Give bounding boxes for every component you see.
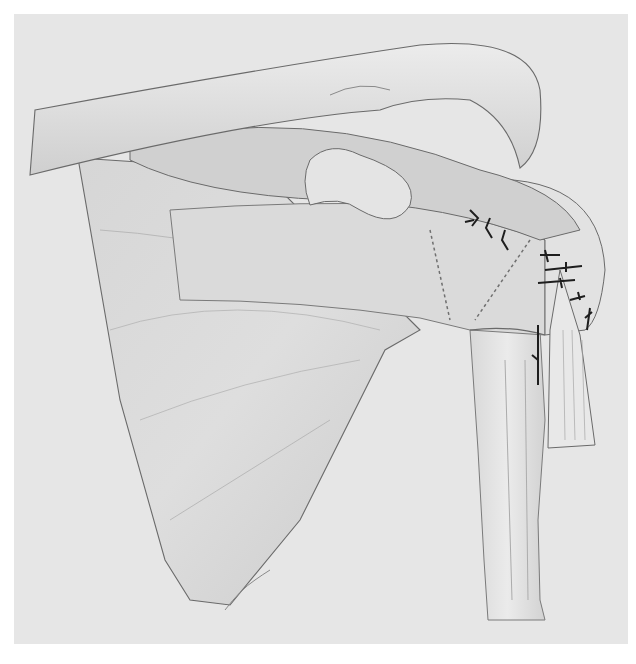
humerus	[470, 330, 545, 620]
illustration-frame	[0, 0, 636, 664]
shoulder-illustration	[0, 0, 636, 664]
